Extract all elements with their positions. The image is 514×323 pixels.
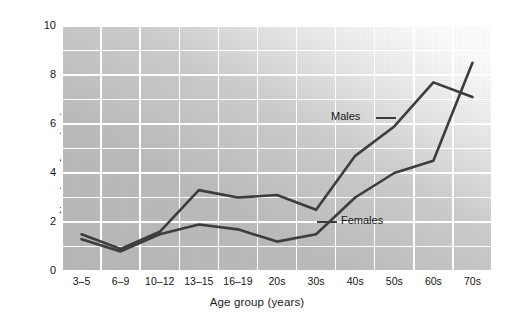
- x-axis-tick-labels: 3–56–910–1213–1516–1920s30s40s50s60s70s: [62, 276, 492, 294]
- x-tick-label: 13–15: [184, 276, 213, 287]
- x-tick-label: 16–19: [223, 276, 252, 287]
- x-tick-label: 10–12: [145, 276, 174, 287]
- y-tick-label: 6: [30, 118, 56, 129]
- line-chart-figure: Number of awakenings 0246810 Males Femal…: [0, 0, 514, 323]
- plot-area: [62, 26, 492, 271]
- x-axis-title: Age group (years): [0, 296, 514, 308]
- y-tick-label: 0: [30, 265, 56, 276]
- y-tick-label: 4: [30, 167, 56, 178]
- y-tick-label: 2: [30, 216, 56, 227]
- x-tick-label: 70s: [464, 276, 481, 287]
- x-tick-label: 50s: [386, 276, 403, 287]
- x-tick-label: 60s: [425, 276, 442, 287]
- horizontal-gridlines: [62, 26, 492, 271]
- x-tick-label: 20s: [269, 276, 286, 287]
- y-axis-tick-labels: 0246810: [30, 0, 56, 323]
- x-tick-label: 3–5: [73, 276, 91, 287]
- series-annotation-males: Males: [331, 111, 360, 122]
- x-tick-label: 30s: [308, 276, 325, 287]
- y-tick-label: 8: [30, 69, 56, 80]
- x-tick-label: 40s: [347, 276, 364, 287]
- leader-line-females: [317, 221, 337, 223]
- series-annotation-females: Females: [341, 215, 383, 226]
- x-tick-label: 6–9: [112, 276, 130, 287]
- plot-svg: [62, 26, 492, 271]
- y-tick-label: 10: [30, 20, 56, 31]
- leader-line-males: [376, 117, 396, 119]
